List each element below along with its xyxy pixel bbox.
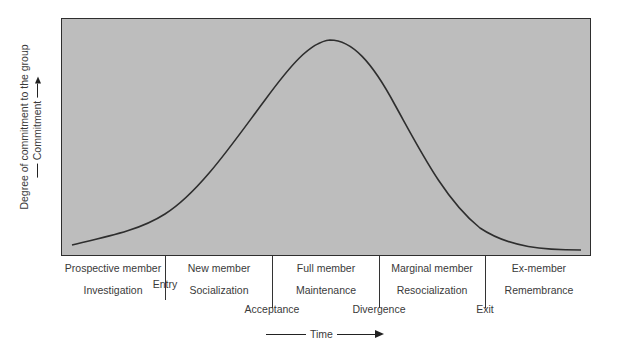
stage-full: Full member Maintenance <box>273 262 379 296</box>
x-axis-title: Time <box>310 328 333 340</box>
stage-role: Prospective member <box>60 262 166 274</box>
y-axis-line <box>37 163 38 177</box>
y-axis-subtitle: Commitment <box>31 101 44 161</box>
stage-new: New member Socialization <box>166 262 272 296</box>
stage-role: Marginal member <box>379 262 485 274</box>
y-axis-title: Degree of commitment to the group <box>18 44 31 209</box>
transition-entry: Entry <box>153 278 178 290</box>
stage-marginal: Marginal member Resocialization <box>379 262 485 296</box>
transition-divergence: Divergence <box>352 303 405 315</box>
commitment-curve <box>0 0 624 355</box>
stage-prospective: Prospective member Investigation <box>60 262 166 296</box>
stage-role: Ex-member <box>486 262 592 274</box>
y-axis-line <box>37 84 38 98</box>
y-axis-label: Degree of commitment to the group Commit… <box>18 44 44 209</box>
transition-exit: Exit <box>476 303 494 315</box>
stage-process: Resocialization <box>379 284 485 296</box>
stage-process: Investigation <box>60 284 166 296</box>
x-axis-line <box>266 334 306 335</box>
stage-process: Remembrance <box>486 284 592 296</box>
transition-acceptance: Acceptance <box>245 303 300 315</box>
up-arrow-icon <box>35 77 41 84</box>
x-axis-label: Time <box>266 328 384 340</box>
stage-role: New member <box>166 262 272 274</box>
right-arrow-icon <box>375 330 384 338</box>
x-axis-line <box>337 334 375 335</box>
stage-role: Full member <box>273 262 379 274</box>
stage-ex: Ex-member Remembrance <box>486 262 592 296</box>
stage-process: Maintenance <box>273 284 379 296</box>
stage-process: Socialization <box>166 284 272 296</box>
